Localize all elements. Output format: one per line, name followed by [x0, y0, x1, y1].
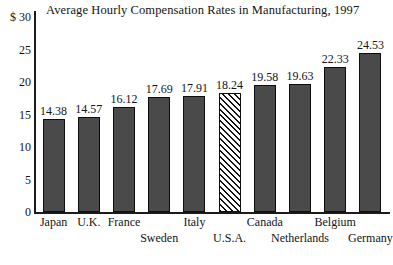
y-tick-label: 10	[0, 141, 34, 153]
bar-value-label: 17.69	[146, 83, 173, 95]
y-tick-label: 5	[0, 174, 34, 186]
bar-value-label: 18.24	[216, 79, 243, 91]
bar-canada	[254, 85, 276, 212]
y-axis-ticks: $ 302520151050	[0, 0, 34, 265]
x-axis-label-netherlands: Netherlands	[271, 232, 329, 245]
bar-value-label: 14.57	[75, 103, 102, 115]
bar-sweden	[148, 97, 170, 212]
bar-value-label: 14.38	[40, 105, 67, 117]
y-tick-label: $ 30	[0, 11, 34, 23]
bar-value-label: 17.91	[181, 82, 208, 94]
y-tick-label: 20	[0, 76, 34, 88]
x-axis-label-uk: U.K.	[77, 216, 100, 229]
x-axis-label-sweden: Sweden	[140, 232, 178, 245]
bar-value-label: 19.63	[287, 70, 314, 82]
y-tick-label: 15	[0, 109, 34, 121]
x-axis-label-germany: Germany	[348, 232, 393, 245]
x-axis-label-belgium: Belgium	[315, 216, 356, 229]
bar-italy	[183, 96, 205, 212]
bar-japan	[43, 119, 65, 212]
bar-germany	[359, 53, 381, 212]
y-tick-label: 0	[0, 206, 34, 218]
x-axis-label-usa: U.S.A.	[213, 232, 246, 245]
bar-value-label: 16.12	[111, 93, 138, 105]
x-axis-label-italy: Italy	[183, 216, 205, 229]
bar-uk	[78, 117, 100, 212]
bar-value-label: 24.53	[357, 39, 384, 51]
y-tick-label: 25	[0, 44, 34, 56]
x-axis-label-france: France	[108, 216, 141, 229]
bar-france	[113, 107, 135, 212]
bar-value-label: 19.58	[251, 71, 278, 83]
bar-value-label: 22.33	[322, 53, 349, 65]
bar-usa	[219, 93, 241, 212]
x-axis-label-canada: Canada	[247, 216, 283, 229]
bar-belgium	[324, 67, 346, 212]
bar-netherlands	[289, 84, 311, 212]
x-axis-label-japan: Japan	[40, 216, 67, 229]
